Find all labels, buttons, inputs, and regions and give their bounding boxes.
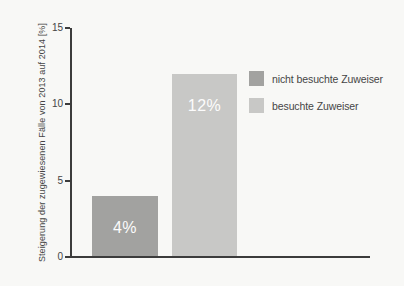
bar-value-label: 12% — [172, 97, 237, 115]
y-tick-mark-5 — [65, 180, 70, 182]
legend-item-besuchte-zuweiser: besuchte Zuweiser — [249, 98, 383, 113]
y-tick-mark-0 — [65, 256, 70, 258]
y-axis-line — [70, 28, 72, 258]
bar-chart: Steigerung der zugewiesenen Fälle von 20… — [0, 0, 404, 286]
y-axis-title: Steigerung der zugewiesenen Fälle von 20… — [37, 23, 48, 263]
legend: nicht besuchte Zuweiser besuchte Zuweise… — [249, 71, 383, 125]
y-tick-label-5: 5 — [35, 175, 63, 187]
bar-value-label: 4% — [92, 219, 158, 237]
legend-swatch-dark — [249, 71, 264, 86]
legend-label-nicht-besuchte-zuweiser: nicht besuchte Zuweiser — [272, 73, 383, 85]
y-tick-mark-10 — [65, 103, 70, 105]
x-axis-line — [70, 256, 370, 258]
y-tick-mark-15 — [65, 27, 70, 29]
legend-label-besuchte-zuweiser: besuchte Zuweiser — [272, 100, 358, 112]
y-tick-label-10: 10 — [35, 98, 63, 110]
bar-besuchte-zuweiser: 12% — [172, 74, 237, 256]
chart-page: Steigerung der zugewiesenen Fälle von 20… — [0, 0, 404, 286]
legend-swatch-light — [249, 98, 264, 113]
y-tick-label-0: 0 — [35, 251, 63, 263]
y-tick-label-15: 15 — [35, 22, 63, 34]
bar-nicht-besuchte-zuweiser: 4% — [92, 196, 158, 256]
legend-item-nicht-besuchte-zuweiser: nicht besuchte Zuweiser — [249, 71, 383, 86]
